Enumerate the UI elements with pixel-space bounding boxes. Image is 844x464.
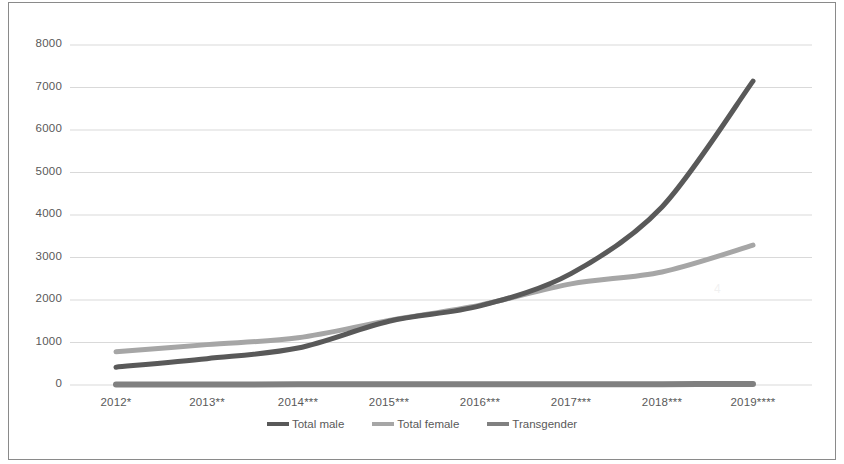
series-line-total-male xyxy=(116,81,753,367)
legend-label: Total male xyxy=(292,418,344,430)
x-tick-label: 2013** xyxy=(162,396,252,408)
y-tick-label: 8000 xyxy=(16,37,62,49)
legend-item[interactable]: Transgender xyxy=(487,418,577,430)
legend-label: Transgender xyxy=(512,418,577,430)
chart-legend: Total maleTotal femaleTransgender xyxy=(0,418,844,430)
x-tick-label: 2016*** xyxy=(435,396,525,408)
legend-item[interactable]: Total male xyxy=(267,418,344,430)
series-line-transgender xyxy=(116,384,753,385)
line-chart: 010002000300040005000600070008000 2012*2… xyxy=(0,0,844,464)
x-tick-label: 2018*** xyxy=(617,396,707,408)
y-tick-label: 1000 xyxy=(16,335,62,347)
y-tick-label: 5000 xyxy=(16,165,62,177)
x-tick-label: 2012* xyxy=(71,396,161,408)
x-tick-label: 2014*** xyxy=(253,396,343,408)
x-tick-label: 2019**** xyxy=(708,396,798,408)
y-tick-label: 6000 xyxy=(16,122,62,134)
x-tick-label: 2017*** xyxy=(526,396,616,408)
legend-swatch xyxy=(372,422,394,426)
plot-canvas xyxy=(0,0,844,464)
data-series-group xyxy=(116,81,753,384)
x-tick-label: 2015*** xyxy=(344,396,434,408)
y-tick-label: 3000 xyxy=(16,250,62,262)
y-tick-label: 0 xyxy=(16,377,62,389)
legend-swatch xyxy=(487,422,509,426)
y-tick-label: 4000 xyxy=(16,207,62,219)
legend-swatch xyxy=(267,422,289,426)
gridlines xyxy=(70,45,812,385)
scan-artifact: 4 xyxy=(714,282,736,298)
legend-label: Total female xyxy=(397,418,459,430)
y-tick-label: 2000 xyxy=(16,292,62,304)
legend-item[interactable]: Total female xyxy=(372,418,459,430)
series-line-total-female xyxy=(116,245,753,352)
y-tick-label: 7000 xyxy=(16,80,62,92)
